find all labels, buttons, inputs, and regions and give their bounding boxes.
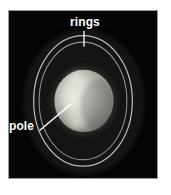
planet-terminator-shading (81, 79, 115, 130)
astronomical-image-frame (8, 10, 158, 179)
figure-root: rings pole (0, 0, 171, 195)
annotation-label-pole: pole (9, 120, 34, 132)
sky-canvas (9, 11, 157, 178)
annotation-label-rings: rings (70, 16, 100, 28)
